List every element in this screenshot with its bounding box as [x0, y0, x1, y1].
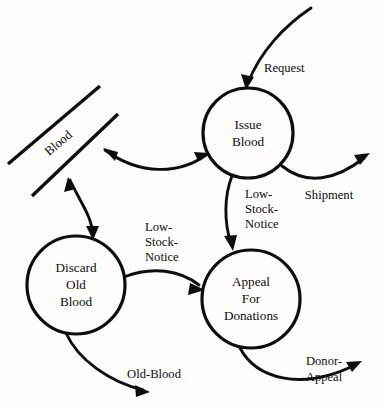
process-label-discard-old-blood-line-2: Old	[66, 277, 86, 292]
flow-label-low-stock-notice-discard-line-2: Stock-	[145, 235, 178, 249]
flow-shipment[interactable]	[282, 153, 370, 178]
flow-line-old-blood	[66, 333, 143, 390]
flow-low-stock-notice-issue[interactable]	[224, 176, 237, 251]
process-label-discard-old-blood-line-3: Blood	[60, 294, 93, 309]
process-discard-old-blood[interactable]: Discard Old Blood	[27, 236, 125, 334]
flow-line-low-stock-notice-issue	[226, 176, 232, 244]
flow-line-blood-issue	[105, 150, 206, 169]
flow-blood-issue-exchange[interactable]	[103, 148, 209, 169]
flow-label-old-blood: Old-Blood	[127, 367, 182, 381]
process-label-appeal-for-donations-line-2: For	[242, 291, 261, 306]
flow-low-stock-notice-discard[interactable]	[124, 271, 205, 295]
process-circle-issue-blood	[203, 88, 293, 178]
arrowhead-low-stock-notice-issue	[224, 235, 237, 251]
flow-blood-discard-exchange[interactable]	[64, 177, 99, 240]
flow-label-low-stock-notice-issue-line-2: Stock-	[245, 202, 278, 216]
flow-label-request: Request	[264, 61, 305, 75]
process-label-issue-blood-line-1: Issue	[234, 117, 261, 132]
process-label-discard-old-blood-line-1: Discard	[55, 260, 96, 275]
dfd-canvas: Blood Issue Blood Discard Old Blood Appe…	[0, 0, 383, 406]
process-appeal-for-donations[interactable]: Appeal For Donations	[202, 250, 300, 348]
arrowhead-to-blood-store	[103, 148, 118, 161]
flow-donor-appeal[interactable]	[240, 348, 362, 379]
flow-label-low-stock-notice-issue-line-1: Low-	[245, 187, 272, 201]
flow-label-low-stock-notice-discard-line-3: Notice	[145, 250, 179, 264]
flow-label-shipment: Shipment	[305, 188, 354, 202]
flow-line-shipment	[282, 158, 364, 178]
flow-request[interactable]	[241, 8, 311, 90]
flow-label-low-stock-notice-discard: Low- Stock- Notice	[145, 220, 179, 264]
flow-label-donor-appeal: Donor- Appeal	[306, 354, 343, 384]
process-label-issue-blood-line-2: Blood	[232, 134, 265, 149]
data-flow-diagram: Blood Issue Blood Discard Old Blood Appe…	[0, 0, 383, 406]
store-line-lower	[32, 114, 118, 196]
process-issue-blood[interactable]: Issue Blood	[203, 88, 293, 178]
flow-line-low-stock-notice-discard	[124, 271, 199, 285]
flow-label-donor-appeal-line-2: Appeal	[306, 370, 343, 384]
flow-label-low-stock-notice-issue-line-3: Notice	[245, 217, 279, 231]
flow-label-donor-appeal-line-1: Donor-	[306, 354, 342, 368]
arrowhead-old-blood	[135, 385, 150, 397]
data-store-blood[interactable]: Blood	[8, 86, 118, 196]
flow-old-blood[interactable]	[66, 333, 150, 397]
flow-label-low-stock-notice-issue: Low- Stock- Notice	[245, 187, 279, 231]
flow-label-low-stock-notice-discard-line-1: Low-	[145, 220, 172, 234]
process-label-appeal-for-donations-line-1: Appeal	[232, 274, 270, 289]
process-label-appeal-for-donations-line-3: Donations	[224, 308, 278, 323]
